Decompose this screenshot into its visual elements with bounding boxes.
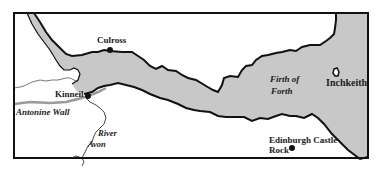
inchkeith-island xyxy=(333,68,339,76)
inchkeith-label: Inchkeith xyxy=(326,78,367,88)
culross-marker xyxy=(107,47,113,53)
firth-label-2: Forth xyxy=(271,87,293,96)
edinburgh-label-1: Edinburgh Castle xyxy=(269,136,337,145)
river-avon-label-1: River xyxy=(98,129,117,138)
antonine-wall-label: Antonine Wall xyxy=(16,108,69,117)
edinburgh-marker xyxy=(289,145,295,151)
kinneil-marker xyxy=(85,93,91,99)
edinburgh-label-2: Rock xyxy=(269,146,289,155)
culross-label: Culross xyxy=(97,36,126,45)
kinneil-label: Kinneil xyxy=(55,90,84,99)
firth-label-1: Firth of xyxy=(270,75,299,84)
west-stream xyxy=(14,78,78,88)
river-avon-label-2: Avon xyxy=(88,140,106,149)
